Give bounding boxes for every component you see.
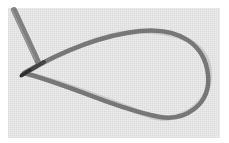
thread-loop: [24, 30, 208, 117]
thread-loop-illustration: [0, 0, 229, 143]
thread-tail: [14, 10, 38, 62]
fabric-photo: [8, 8, 220, 138]
thread-tail-highlight: [12, 10, 35, 60]
